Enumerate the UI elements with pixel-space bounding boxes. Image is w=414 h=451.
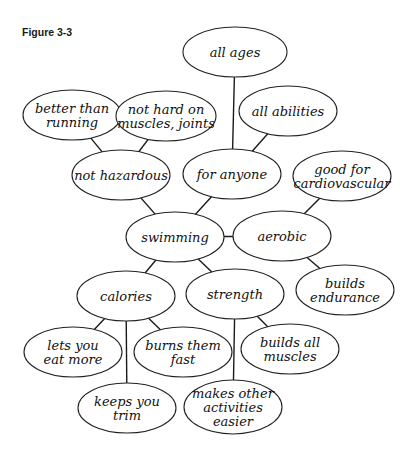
node-label: builds — [325, 276, 365, 291]
node-for-anyone: for anyone — [183, 149, 281, 199]
node-label: eat more — [44, 352, 103, 367]
node-label: trim — [113, 408, 141, 423]
node-keeps-you-trim: keeps youtrim — [78, 383, 176, 433]
node-all-abilities: all abilities — [239, 86, 337, 136]
node-aerobic: aerobic — [233, 211, 331, 261]
node-builds-endurance: buildsendurance — [296, 265, 394, 315]
node-burns-them-fast: burns themfast — [134, 327, 232, 377]
node-label: activities — [203, 400, 263, 415]
node-label: for anyone — [196, 167, 268, 182]
connector-swimming-strength — [198, 259, 212, 272]
node-lets-you-eat-more: lets youeat more — [24, 327, 122, 377]
concept-map: all agesbetter thanrunningnot hard onmus… — [0, 0, 414, 451]
node-label: easier — [213, 414, 254, 429]
node-label: makes other — [192, 386, 275, 401]
node-label: not hazardous — [74, 168, 168, 183]
node-label: muscles — [263, 349, 317, 364]
node-label: muscles, joints — [117, 116, 215, 131]
node-calories: calories — [77, 271, 175, 321]
node-label: strength — [207, 287, 263, 302]
connector-better_than_running-not_hazardous — [91, 138, 102, 152]
node-label: good for — [314, 162, 370, 177]
node-label: swimming — [141, 230, 208, 245]
node-swimming: swimming — [126, 212, 224, 262]
node-label: builds all — [260, 335, 320, 350]
node-good-for-cardio: good forcardiovascular — [293, 151, 391, 201]
node-label: calories — [100, 289, 152, 304]
node-better-than-running: better thanrunning — [23, 90, 121, 140]
node-label: all ages — [210, 45, 261, 60]
connector-aerobic-builds_endurance — [307, 257, 320, 268]
connector-not_hazardous-swimming — [141, 198, 155, 214]
node-label: lets you — [47, 338, 98, 353]
connector-all_ages-for_anyone — [233, 77, 235, 149]
node-label: all abilities — [252, 104, 325, 119]
node-label: not hard on — [128, 102, 205, 117]
node-label: better than — [35, 101, 109, 116]
connector-good_for_cardio-aerobic — [304, 198, 319, 213]
node-label: burns them — [145, 338, 221, 353]
node-label: endurance — [310, 290, 380, 305]
connector-calories-keeps_you_trim — [126, 321, 127, 383]
connector-calories-burns_them_fast — [149, 318, 161, 330]
connector-strength-builds_all_muscles — [257, 316, 267, 326]
node-builds-all-muscles: builds allmuscles — [241, 324, 339, 374]
connector-for_anyone-swimming — [196, 197, 212, 215]
node-not-hazardous: not hazardous — [72, 150, 170, 200]
node-label: aerobic — [257, 229, 307, 244]
connector-all_abilities-for_anyone — [252, 134, 268, 151]
node-label: keeps you — [94, 394, 160, 409]
node-makes-other-activities-easier: makes otheractivitieseasier — [184, 380, 282, 434]
node-not-hard-on-muscles: not hard onmuscles, joints — [116, 91, 216, 141]
connector-strength-makes_other_activities_easier — [233, 319, 234, 380]
node-label: cardiovascular — [293, 176, 391, 191]
concept-nodes: all agesbetter thanrunningnot hard onmus… — [23, 27, 394, 434]
node-label: fast — [170, 352, 196, 367]
connector-not_hard_on_muscles-not_hazardous — [139, 139, 148, 151]
connector-calories-lets_you_eat_more — [94, 319, 104, 330]
connector-swimming-calories — [145, 260, 156, 273]
node-strength: strength — [186, 269, 284, 319]
node-all-ages: all ages — [183, 27, 287, 77]
node-label: running — [46, 115, 98, 130]
